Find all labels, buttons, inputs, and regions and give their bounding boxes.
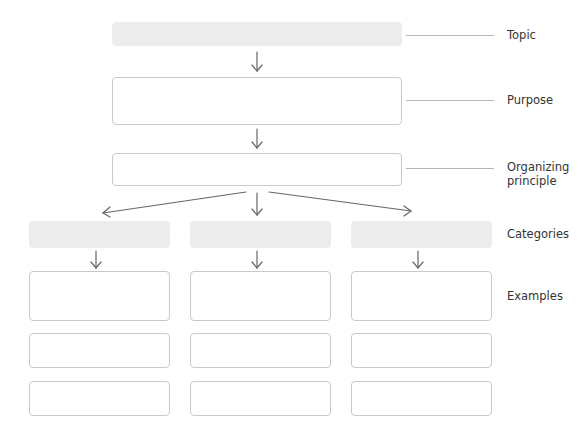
arrow-down-icon xyxy=(413,251,423,268)
arrow-down-icon xyxy=(91,251,101,268)
arrow-down-icon xyxy=(252,193,262,215)
arrow-diagonal-right-icon xyxy=(269,192,411,216)
arrow-down-icon xyxy=(252,251,262,268)
arrow-down-icon xyxy=(252,52,262,71)
arrow-diagonal-left-icon xyxy=(103,192,246,217)
arrows-layer xyxy=(0,0,584,434)
arrow-down-icon xyxy=(252,129,262,148)
